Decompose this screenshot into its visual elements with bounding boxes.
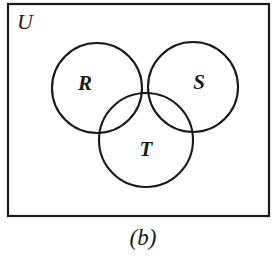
venn-diagram-canvas: U R S T (b) (0, 0, 274, 256)
universe-rectangle (8, 4, 269, 216)
set-circle-r (52, 43, 142, 133)
figure-caption: (b) (130, 225, 157, 250)
venn-diagram-figure: U R S T (b) (0, 0, 274, 256)
universe-label: U (17, 9, 35, 34)
set-label-t: T (140, 137, 154, 161)
set-label-r: R (77, 71, 92, 95)
set-label-s: S (193, 70, 205, 94)
